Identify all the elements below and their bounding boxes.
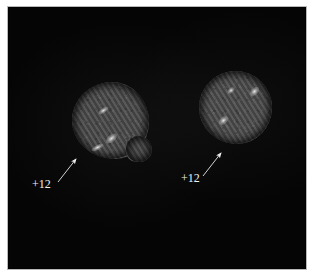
figure-root: +12 +12 xyxy=(0,0,317,280)
right-cell xyxy=(199,71,272,144)
left-cell-lobe-body xyxy=(126,136,152,162)
right-cell-body xyxy=(199,71,272,144)
annotation-right-label: +12 xyxy=(181,172,200,184)
annotation-left-label: +12 xyxy=(32,178,51,190)
micrograph-field: +12 +12 xyxy=(9,8,305,268)
left-cell-lobe xyxy=(126,136,152,162)
